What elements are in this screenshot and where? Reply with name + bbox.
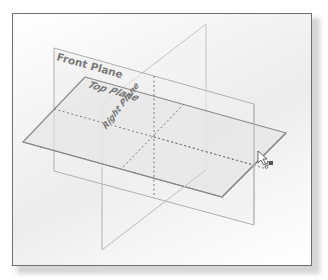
solidworks-graphics-window: Front Plane Top Plane Right Plane	[0, 0, 328, 280]
plane-cursor-badge-icon	[265, 161, 273, 168]
reference-planes-scene: Front Plane Top Plane Right Plane	[0, 0, 328, 280]
